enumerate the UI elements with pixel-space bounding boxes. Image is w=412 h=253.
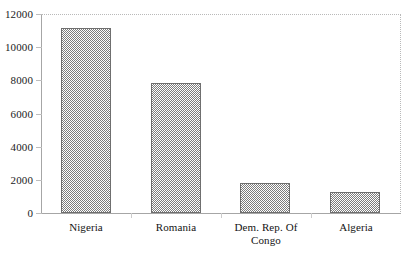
- x-category-label-dem-rep-of-congo: Dem. Rep. Of Congo: [221, 221, 311, 246]
- y-tick-label-text: 4000: [1, 142, 33, 153]
- y-tick-mark: [36, 47, 42, 48]
- y-tick-mark: [36, 80, 42, 81]
- y-tick-mark: [36, 180, 42, 181]
- x-category-label-line: Dem. Rep. Of: [221, 221, 311, 234]
- x-category-label-line: Algeria: [311, 221, 401, 234]
- bar-chart: 12000 10000 8000 6000 4000 2000 0 Nigeri…: [0, 0, 412, 253]
- y-tick-label-text: 10000: [1, 42, 33, 53]
- x-category-label-line: Congo: [221, 234, 311, 247]
- bar-romania[interactable]: [151, 83, 201, 213]
- y-tick-label-text: 6000: [1, 109, 33, 120]
- y-tick-label: 10000: [0, 42, 33, 53]
- y-tick-label: 12000: [0, 9, 33, 20]
- y-tick-label-text: 8000: [1, 75, 33, 86]
- x-category-label-line: Romania: [131, 221, 221, 234]
- x-tick-mark: [311, 213, 312, 218]
- y-tick-label: 6000: [0, 109, 33, 120]
- y-tick-mark: [36, 213, 42, 214]
- x-category-label-nigeria: Nigeria: [41, 221, 131, 234]
- y-tick-mark: [36, 114, 42, 115]
- x-tick-mark: [221, 213, 222, 218]
- y-tick-label-text: 12000: [1, 9, 33, 20]
- bar-nigeria[interactable]: [61, 28, 111, 213]
- y-tick-label: 8000: [0, 75, 33, 86]
- y-tick-label-text: 2000: [1, 175, 33, 186]
- x-category-label-line: Nigeria: [41, 221, 131, 234]
- x-category-label-romania: Romania: [131, 221, 221, 234]
- y-tick-mark: [36, 14, 42, 15]
- y-tick-label: 4000: [0, 142, 33, 153]
- bar-algeria[interactable]: [330, 192, 380, 213]
- x-tick-mark: [131, 213, 132, 218]
- bar-dem-rep-of-congo[interactable]: [240, 183, 290, 213]
- y-tick-mark: [36, 147, 42, 148]
- x-category-label-algeria: Algeria: [311, 221, 401, 234]
- y-tick-label-text: 0: [1, 208, 33, 219]
- y-tick-label: 0: [0, 208, 33, 219]
- plot-right-border: [400, 14, 401, 214]
- y-tick-label: 2000: [0, 175, 33, 186]
